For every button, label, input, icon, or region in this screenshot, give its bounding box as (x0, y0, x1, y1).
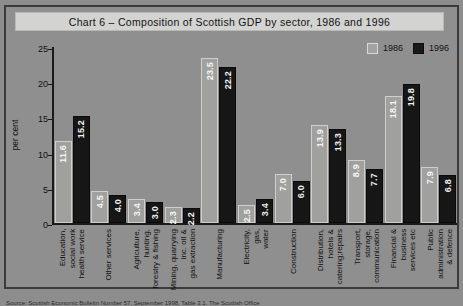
bar-1996: 15.2 (73, 116, 90, 223)
x-axis-category-text: Transport, storage, communication (353, 229, 382, 283)
bar-group: 8.97.7 (347, 47, 384, 223)
x-axis-category: Education, social work health service (54, 229, 91, 301)
bar-group: 23.522.2 (201, 47, 238, 223)
x-axis-category-text: Financial & business services etc (389, 229, 418, 271)
bar-value-label: 2.3 (168, 211, 178, 224)
bar-1996: 19.8 (403, 84, 420, 223)
bar-value-label: 22.2 (223, 71, 233, 89)
bar-1986: 4.5 (91, 191, 108, 223)
bar-value-label: 8.9 (351, 164, 361, 177)
x-axis-line (52, 223, 457, 225)
bar-value-label: 7.7 (369, 173, 379, 186)
bar-value-label: 3.4 (260, 203, 270, 216)
bar-group: 18.119.8 (384, 47, 421, 223)
bar-1986: 2.5 (238, 205, 255, 223)
bar-1986: 18.1 (385, 96, 402, 223)
x-axis-category-text: Construction (289, 229, 299, 274)
bar-value-label: 18.1 (388, 100, 398, 118)
y-axis-title: per cent (10, 120, 20, 151)
y-axis-tick-label: 25 (26, 44, 48, 54)
x-axis-category-text: Mining, quarrying inc. oil & gas extract… (169, 229, 198, 290)
y-axis-tick-mark (48, 119, 52, 120)
y-axis-tick-label: 20 (26, 79, 48, 89)
bar-1986: 3.4 (128, 199, 145, 223)
bar-group: 7.06.0 (274, 47, 311, 223)
y-axis-tick-mark (48, 49, 52, 50)
chart-frame: Chart 6 – Composition of Scottish GDP by… (4, 5, 459, 289)
x-axis-category: Financial & business services etc (385, 229, 422, 301)
bar-value-label: 11.6 (58, 145, 68, 163)
bar-value-label: 4.0 (113, 199, 123, 212)
x-axis-category: Other services (91, 229, 128, 301)
bar-1986: 11.6 (55, 141, 72, 223)
x-axis-category: Construction (275, 229, 312, 301)
bar-1996: 7.7 (366, 169, 383, 223)
x-axis-category: Electricity, gas, water (238, 229, 275, 301)
bar-group: 3.43.0 (127, 47, 164, 223)
x-axis-category: Mining, quarrying inc. oil & gas extract… (164, 229, 201, 301)
chart-title: Chart 6 – Composition of Scottish GDP by… (15, 12, 444, 31)
bar-value-label: 23.5 (205, 62, 215, 80)
bar-value-label: 2.2 (186, 212, 196, 225)
plot-area: per cent 0510152025 11.615.24.54.03.43.0… (52, 47, 457, 225)
bar-1986: 2.3 (165, 207, 182, 223)
y-axis-tick-label: 15 (26, 114, 48, 124)
bar-value-label: 4.5 (95, 195, 105, 208)
x-axis-category: Distribution, hotels & catering;repairs (312, 229, 349, 301)
bar-1996: 4.0 (109, 195, 126, 223)
source-footnote: Source: Scottish Economic Bulletin Numbe… (6, 300, 259, 306)
bar-group: 2.32.2 (164, 47, 201, 223)
bar-value-label: 13.3 (333, 133, 343, 151)
bar-value-label: 7.0 (278, 178, 288, 191)
x-axis-category: Manufacturing (201, 229, 238, 301)
bar-value-label: 2.5 (242, 209, 252, 222)
bar-value-label: 3.0 (150, 206, 160, 219)
bar-value-label: 15.2 (76, 120, 86, 138)
y-axis-tick-mark (48, 155, 52, 156)
bar-1996: 22.2 (219, 67, 236, 223)
bar-1996: 2.2 (183, 208, 200, 223)
bar-group: 11.615.2 (54, 47, 91, 223)
x-axis-category-text: Distribution, hotels & catering;repairs (316, 229, 345, 284)
bar-1986: 8.9 (348, 160, 365, 223)
bar-group: 2.53.4 (237, 47, 274, 223)
x-axis-category-text: Manufacturing (215, 229, 225, 280)
bar-group: 7.96.8 (420, 47, 457, 223)
x-axis-category-text: Other services (104, 229, 114, 281)
bar-1986: 23.5 (201, 58, 218, 223)
bar-value-label: 19.8 (406, 88, 416, 106)
bar-group: 4.54.0 (91, 47, 128, 223)
bar-value-label: 13.9 (315, 129, 325, 147)
x-axis-category-text: Agriculture, hunting, forestry & fishing (132, 229, 161, 289)
bar-1996: 13.3 (329, 129, 346, 223)
bar-value-label: 7.9 (425, 171, 435, 184)
bar-1986: 13.9 (311, 125, 328, 223)
bar-1986: 7.9 (421, 167, 438, 223)
bar-1996: 6.8 (439, 175, 456, 223)
y-axis-tick-mark (48, 84, 52, 85)
bar-value-label: 6.8 (443, 179, 453, 192)
bar-series-container: 11.615.24.54.03.43.02.32.223.522.22.53.4… (54, 47, 457, 223)
bar-1996: 6.0 (293, 181, 310, 223)
bar-1986: 7.0 (275, 174, 292, 223)
x-axis-category-text: Electricity, gas, water (242, 229, 271, 265)
bar-1996: 3.0 (146, 202, 163, 223)
y-axis-tick-label: 10 (26, 150, 48, 160)
x-axis-category-labels: Education, social work health serviceOth… (54, 229, 459, 301)
x-axis-category: Public administration & defence (422, 229, 459, 301)
y-axis-tick-mark (48, 225, 52, 226)
y-axis-tick-mark (48, 190, 52, 191)
bar-group: 13.913.3 (310, 47, 347, 223)
x-axis-category-text: Education, social work health service (58, 229, 87, 278)
bar-value-label: 6.0 (296, 185, 306, 198)
x-axis-category: Agriculture, hunting, forestry & fishing (128, 229, 165, 301)
x-axis-category-text: Public administration & defence (426, 229, 455, 279)
bar-1996: 3.4 (256, 199, 273, 223)
bar-value-label: 3.4 (132, 203, 142, 216)
y-axis-tick-label: 5 (26, 185, 48, 195)
y-axis-tick-label: 0 (26, 220, 48, 230)
x-axis-category: Transport, storage, communication (349, 229, 386, 301)
